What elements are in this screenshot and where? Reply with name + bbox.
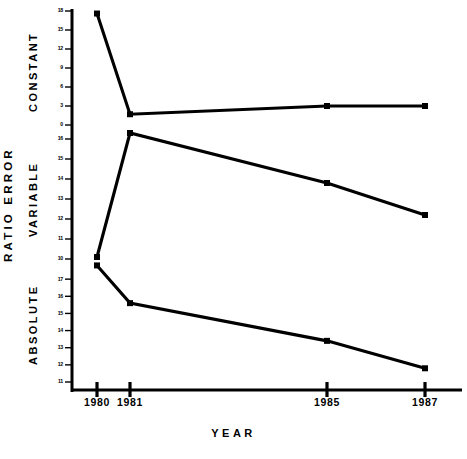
y-tick-label: 13 (47, 345, 63, 350)
y-tick-label: 3 (47, 103, 63, 108)
data-point-marker (94, 254, 100, 260)
y-tick-label: 12 (47, 362, 63, 367)
data-point-marker (94, 11, 100, 17)
chart-figure: RATIO ERROR CONSTANT VARIABLE ABSOLUTE 0… (0, 0, 467, 459)
data-point-marker (324, 180, 330, 186)
y-tick-label: 10 (47, 256, 63, 261)
x-tick-label: 1981 (107, 396, 153, 408)
y-tick-label: 17 (47, 277, 63, 282)
y-tick-label: 12 (47, 216, 63, 221)
axis-lines (71, 9, 462, 392)
y-tick-label: 13 (47, 196, 63, 201)
y-tick-label: 15 (47, 311, 63, 316)
data-point-marker (422, 212, 428, 218)
data-point-marker (127, 111, 133, 117)
y-tick-label: 14 (47, 328, 63, 333)
series-line-constant (97, 14, 425, 115)
data-point-marker (127, 130, 133, 136)
x-tick-label: 1985 (304, 396, 350, 408)
y-tick-label: 11 (47, 236, 63, 241)
y-tick-label: 15 (47, 27, 63, 32)
data-point-marker (422, 103, 428, 109)
plot-area (0, 0, 467, 459)
y-tick-label: 18 (47, 8, 63, 13)
y-tick-label: 11 (47, 379, 63, 384)
data-point-marker (127, 300, 133, 306)
data-point-marker (94, 262, 100, 268)
y-tick-label: 6 (47, 84, 63, 89)
x-tick-label: 1987 (402, 396, 448, 408)
y-tick-label: 15 (47, 156, 63, 161)
x-axis-title: YEAR (0, 427, 467, 439)
y-tick-label: 9 (47, 65, 63, 70)
y-tick-label: 16 (47, 136, 63, 141)
data-series (94, 11, 428, 372)
data-point-marker (324, 103, 330, 109)
series-line-variable (97, 133, 425, 257)
data-point-marker (422, 365, 428, 371)
y-tick-label: 12 (47, 46, 63, 51)
y-tick-label: 14 (47, 176, 63, 181)
data-point-marker (324, 338, 330, 344)
y-tick-label: 0 (47, 122, 63, 127)
y-tick-label: 16 (47, 294, 63, 299)
series-line-absolute (97, 265, 425, 368)
